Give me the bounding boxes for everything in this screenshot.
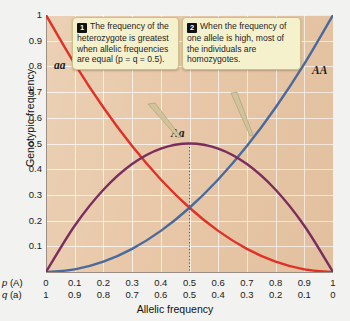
- y-axis-tick-label: 0.3: [2, 190, 42, 200]
- callout-2-text: When the frequency of one allele is high…: [187, 21, 286, 64]
- y-axis-tick-label: 0.6: [2, 113, 42, 123]
- y-axis-tick-label: 1: [2, 10, 42, 20]
- callout-1-text: The frequency of the heterozygote is gre…: [77, 21, 169, 64]
- y-axis-tick-label: 0.7: [2, 87, 42, 97]
- x-axis-tick-label: 0.8: [263, 277, 289, 288]
- x-axis-tick-label: 1: [320, 277, 346, 288]
- x-axis-tick-label: 0.7: [119, 289, 145, 300]
- x-axis-tick-label: 0.3: [234, 289, 260, 300]
- y-axis-tick-label: 0.8: [2, 61, 42, 71]
- x-axis-tick-label: 0.6: [148, 289, 174, 300]
- x-axis-tick-label: 0.2: [263, 289, 289, 300]
- x-axis-tick-label: 0.7: [234, 277, 260, 288]
- y-axis-tick-label: 0.2: [2, 216, 42, 226]
- x-axis-line: [46, 272, 333, 273]
- x-axis-tick-label: 0.6: [205, 277, 231, 288]
- y-axis-tick-label: 0.5: [2, 139, 42, 149]
- x-axis-tick-label: 0: [320, 289, 346, 300]
- callout-2-badge: 2: [187, 23, 197, 33]
- hardy-weinberg-chart: 10.90.80.70.60.50.40.30.20.1 Genotypic f…: [0, 0, 350, 321]
- x-axis-tick-label: 0.4: [205, 289, 231, 300]
- y-axis-title: Genotypic frequency: [24, 28, 36, 208]
- x-axis-tick-label: 0.8: [90, 289, 116, 300]
- y-axis-tick-label: 0.4: [2, 164, 42, 174]
- x-axis-tick-label: 0.5: [177, 289, 203, 300]
- x-axis-tick-label: 0.5: [177, 277, 203, 288]
- x-axis-tick-label: 0.9: [62, 289, 88, 300]
- curve-label-AA: AA: [312, 64, 327, 76]
- curve-label-Aa: Aa: [171, 127, 184, 139]
- x-axis-tick-label: 0: [33, 277, 59, 288]
- x-axis-tick-label: 0.4: [148, 277, 174, 288]
- callout-2: 2When the frequency of one allele is hig…: [182, 17, 301, 70]
- callout-1-badge: 1: [77, 23, 87, 33]
- x-axis-tick-label: 1: [33, 289, 59, 300]
- y-axis-tick-label: 0.9: [2, 36, 42, 46]
- x-axis-tick-label: 0.1: [62, 277, 88, 288]
- x-axis-tick-label: 0.9: [291, 277, 317, 288]
- curve-label-aa: aa: [54, 59, 66, 71]
- x-axis-tick-label: 0.3: [119, 277, 145, 288]
- x-axis-tick-label: 0.2: [90, 277, 116, 288]
- x-axis-title: Allelic frequency: [0, 303, 350, 315]
- x-axis-tick-label: 0.1: [291, 289, 317, 300]
- y-axis-tick-label: 0.1: [2, 241, 42, 251]
- callout-1: 1The frequency of the heterozygote is gr…: [72, 17, 179, 70]
